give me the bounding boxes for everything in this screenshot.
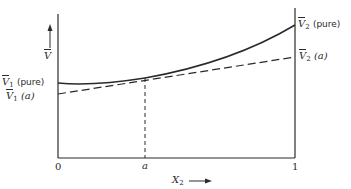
v2-pure-label: V2 (pure) [298,18,340,33]
v2-a-label: V2 (a) [299,50,328,65]
y-axis-label: V [44,50,51,62]
v1-a-label: V1 (a) [6,90,35,105]
y-arrow-icon [48,24,53,48]
solution-volume-curve [58,25,295,84]
tick-one: 1 [292,161,298,173]
x-axis-label: X2 [172,174,184,189]
tick-zero: 0 [55,161,61,173]
tangent-line [58,57,295,94]
tick-a: a [142,160,148,172]
